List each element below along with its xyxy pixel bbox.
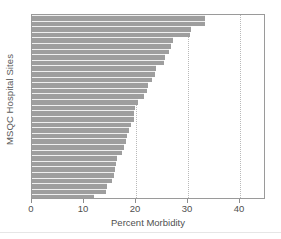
x-axis-title: Percent Morbidity xyxy=(31,217,265,228)
x-tick-label-0: 0 xyxy=(28,203,33,214)
x-tick-label-40: 40 xyxy=(234,203,245,214)
bar-series xyxy=(32,15,264,198)
x-axis-tick-labels: 010203040 xyxy=(31,203,265,216)
bar-chart-figure: MSQC Hospital Sites 010203040 Percent Mo… xyxy=(0,0,281,239)
x-tick-label-30: 30 xyxy=(182,203,193,214)
x-tick-label-10: 10 xyxy=(78,203,89,214)
y-axis-title: MSQC Hospital Sites xyxy=(2,0,18,199)
x-tick-label-20: 20 xyxy=(130,203,141,214)
y-axis-title-text: MSQC Hospital Sites xyxy=(5,54,16,145)
plot-area xyxy=(31,14,265,199)
figure-bottom-edge xyxy=(0,232,281,239)
